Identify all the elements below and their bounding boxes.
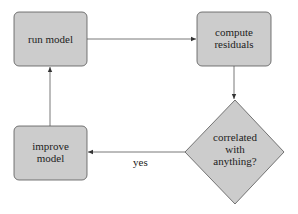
node-run-model: run model <box>14 12 87 66</box>
node-label-line1: correlated <box>213 131 257 143</box>
node-label: run model <box>28 33 73 45</box>
flowchart: yes run model compute residuals correlat… <box>0 0 298 214</box>
node-label-line2: with <box>225 143 245 155</box>
node-label-line1: improve <box>32 140 69 152</box>
node-label-line1: compute <box>215 26 253 38</box>
node-label-line2: residuals <box>214 38 253 50</box>
node-compute-residuals: compute residuals <box>197 12 271 66</box>
node-label-line2: model <box>37 152 65 164</box>
edge-decide-to-improve: yes <box>88 152 185 168</box>
node-improve-model: improve model <box>14 126 87 180</box>
node-correlated-decision: correlated with anything? <box>185 100 284 204</box>
node-label-line3: anything? <box>213 155 256 167</box>
edge-label-yes: yes <box>133 156 148 168</box>
